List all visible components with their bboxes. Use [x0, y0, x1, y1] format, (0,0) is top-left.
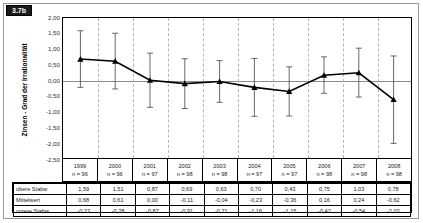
table-cell: 0,75	[307, 184, 341, 195]
y-axis-tick-labels: 2,001,501,000,500,00-0,50-1,00-1,50-2,00…	[30, 17, 60, 159]
table-row: untere Stabw-0,23-0,28-0,87-0,91-0,71-1,…	[14, 206, 411, 217]
x-axis-category: 2004n = 97	[238, 159, 273, 181]
table-cell: 1,03	[342, 184, 376, 195]
y-axis-tick-label: 2,00	[32, 13, 60, 22]
x-axis-category: 2001n = 97	[133, 159, 168, 181]
y-axis-tick-label: -1,00	[32, 107, 60, 116]
table-cell: -0,11	[170, 195, 204, 206]
table-cell: -0,04	[204, 195, 238, 206]
x-axis-category: 2006n = 98	[307, 159, 342, 181]
y-axis-tick-label: 1,00	[32, 44, 60, 53]
table-row-label: untere Stabw	[14, 206, 67, 217]
x-axis-sample-size-label: n = 97	[238, 170, 272, 178]
table-cell: -0,91	[170, 206, 204, 217]
error-bar-line-series	[63, 18, 411, 158]
x-axis-sample-size-label: n = 98	[377, 170, 411, 178]
y-axis-tick-label: -2,00	[32, 139, 60, 148]
y-axis-tick-label: -1,50	[32, 123, 60, 132]
y-axis-tick-label: 0,50	[32, 60, 60, 69]
x-axis-category: 2007n = 98	[342, 159, 377, 181]
table-cell: 0,43	[273, 184, 307, 195]
y-axis-tick-label: -2,50	[32, 155, 60, 164]
x-axis-sample-size-label: n = 98	[342, 170, 376, 178]
x-axis-sample-size-label: n = 97	[272, 170, 306, 178]
table-row-label: Mittelwert	[14, 195, 67, 206]
table-cell: -0,42	[307, 206, 341, 217]
table-cell: -2,03	[376, 206, 410, 217]
table-cell: 0,68	[67, 195, 101, 206]
x-axis-category: 1999n = 96	[63, 159, 98, 181]
x-axis-category: 2000n = 96	[98, 159, 133, 181]
table-cell: 0,63	[204, 184, 238, 195]
plot-area	[62, 17, 412, 159]
table-row: Mittelwert0,680,610,00-0,11-0,04-0,23-0,…	[14, 195, 411, 206]
x-axis-sample-size-label: n = 96	[63, 170, 97, 178]
x-axis-sample-size-label: n = 97	[133, 170, 167, 178]
x-axis-category: 2008n = 98	[377, 159, 411, 181]
figure-3-7b: 3.7b Zinsen - Grad der Irrationalität 2,…	[0, 0, 423, 223]
y-axis-title: Zinsen - Grad der Irrationalität	[20, 20, 30, 160]
table-cell: 0,61	[101, 195, 135, 206]
x-axis-year-label: 2004	[238, 162, 272, 170]
x-axis-sample-size-label: n = 98	[203, 170, 237, 178]
x-axis-category-row: 1999n = 962000n = 962001n = 972002n = 98…	[62, 159, 412, 182]
table-cell: 0,16	[307, 195, 341, 206]
y-axis-tick-label: -0,50	[32, 91, 60, 100]
table-cell: 0,69	[170, 184, 204, 195]
x-axis-sample-size-label: n = 98	[307, 170, 341, 178]
mean-line	[80, 59, 393, 99]
table-cell: 0,00	[135, 195, 169, 206]
table-row-label: obere Stabw	[14, 184, 67, 195]
x-axis-year-label: 2001	[133, 162, 167, 170]
x-axis-year-label: 2006	[307, 162, 341, 170]
table-cell: 0,78	[376, 184, 410, 195]
data-table: obere Stabw1,591,510,870,690,630,700,430…	[12, 182, 412, 213]
table-cell: -0,87	[135, 206, 169, 217]
x-axis-year-label: 2008	[377, 162, 411, 170]
table-cell: 0,70	[238, 184, 272, 195]
table-cell: 0,24	[342, 195, 376, 206]
table-row: obere Stabw1,591,510,870,690,630,700,430…	[14, 184, 411, 195]
table-cell: -0,23	[238, 195, 272, 206]
x-axis-year-label: 1999	[63, 162, 97, 170]
table-cell: 1,51	[101, 184, 135, 195]
x-axis-sample-size-label: n = 98	[168, 170, 202, 178]
x-axis-year-label: 2007	[342, 162, 376, 170]
table-cell: -0,54	[342, 206, 376, 217]
x-axis-year-label: 2003	[203, 162, 237, 170]
table-cell: -0,62	[376, 195, 410, 206]
x-axis-year-label: 2005	[272, 162, 306, 170]
x-axis-category: 2003n = 98	[203, 159, 238, 181]
x-axis-category: 2005n = 97	[272, 159, 307, 181]
y-axis-tick-label: 0,00	[32, 76, 60, 85]
table-cell: -1,15	[273, 206, 307, 217]
table-cell: 0,87	[135, 184, 169, 195]
table-cell: 1,59	[67, 184, 101, 195]
table-cell: -0,36	[273, 195, 307, 206]
x-axis-category: 2002n = 98	[168, 159, 203, 181]
table-cell: -0,71	[204, 206, 238, 217]
table-cell: -0,28	[101, 206, 135, 217]
x-axis-year-label: 2002	[168, 162, 202, 170]
y-axis-tick-label: 1,50	[32, 28, 60, 37]
x-axis-year-label: 2000	[98, 162, 132, 170]
table-cell: -0,23	[67, 206, 101, 217]
x-axis-sample-size-label: n = 96	[98, 170, 132, 178]
figure-number-badge: 3.7b	[6, 5, 32, 16]
table-cell: -1,16	[238, 206, 272, 217]
